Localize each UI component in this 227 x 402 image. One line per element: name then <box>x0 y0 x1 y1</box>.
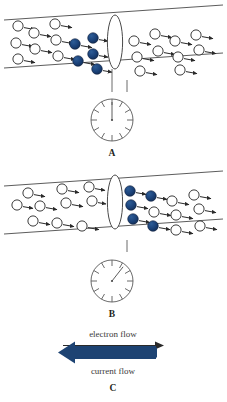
panel-a-label: A <box>109 148 116 158</box>
panel-b: B <box>4 171 223 319</box>
carrier-open <box>173 52 195 62</box>
cross-section-lens <box>107 15 122 69</box>
carrier-open <box>191 30 213 40</box>
carrier-open <box>53 51 75 61</box>
carrier-filled <box>126 200 148 211</box>
carrier-open <box>170 36 192 46</box>
panel-b-carriers-left <box>12 182 106 231</box>
carrier-open <box>194 204 216 214</box>
carrier-open <box>35 201 57 211</box>
carrier-open <box>23 188 45 198</box>
carrier-open <box>171 225 193 235</box>
figure-root: A <box>0 0 227 402</box>
carrier-open <box>153 46 175 56</box>
carrier-open <box>189 190 211 200</box>
carrier-open <box>61 198 83 208</box>
carrier-filled <box>92 64 112 75</box>
panel-c: electron flow current flow C <box>58 329 164 393</box>
carrier-filled <box>88 33 108 44</box>
carrier-filled <box>128 214 150 225</box>
carrier-open <box>132 52 154 62</box>
ammeter-a[interactable] <box>91 69 133 141</box>
carrier-filled <box>148 221 170 232</box>
carrier-filled <box>146 191 167 202</box>
carrier-open <box>129 36 151 46</box>
carrier-open <box>149 207 171 217</box>
current-flow-label: current flow <box>91 366 136 376</box>
carrier-open <box>11 38 33 48</box>
panel-b-label: B <box>109 309 116 319</box>
carrier-filled <box>125 186 146 197</box>
panel-a: A <box>4 5 223 158</box>
panel-a-carriers-left <box>11 19 75 64</box>
carrier-open <box>29 28 51 38</box>
carrier-open <box>12 200 33 210</box>
current-flow-arrow <box>58 342 157 364</box>
carrier-open <box>57 184 79 194</box>
carrier-open <box>30 44 52 54</box>
carrier-open <box>50 19 72 29</box>
carrier-open <box>52 218 74 228</box>
carrier-open <box>77 221 99 231</box>
panel-a-carriers-right <box>129 29 216 76</box>
carrier-open <box>167 196 189 206</box>
carrier-open <box>195 221 217 231</box>
carrier-open <box>150 29 172 39</box>
carrier-open <box>28 216 50 226</box>
carrier-open <box>175 65 197 75</box>
electron-flow-label: electron flow <box>89 329 137 339</box>
cross-section-lens <box>107 175 122 229</box>
carrier-open <box>135 66 157 76</box>
carrier-open <box>87 196 106 206</box>
carrier-filled <box>88 49 108 60</box>
panel-b-carriers-right <box>149 190 217 235</box>
carrier-open <box>171 210 193 220</box>
carrier-open <box>84 182 105 192</box>
panel-a-carriers-filled <box>70 33 112 75</box>
panel-c-label: C <box>110 383 117 393</box>
ammeter-b[interactable] <box>91 240 133 302</box>
electron-flow-figure: A <box>0 0 227 402</box>
carrier-open <box>13 54 35 64</box>
